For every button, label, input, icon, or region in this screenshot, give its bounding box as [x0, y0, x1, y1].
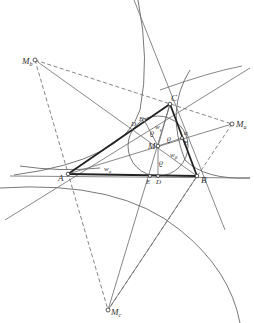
label-w-beta: wβ: [170, 151, 178, 160]
side-lines: [5, 0, 250, 230]
triangle-abc: [68, 104, 197, 176]
label-b: B: [201, 175, 207, 185]
label-w-gamma: wγ: [155, 123, 163, 132]
label-rho-1: ϱ: [150, 128, 154, 137]
label-c: C: [171, 93, 178, 103]
label-e-foot: E: [145, 178, 151, 186]
points: [33, 58, 234, 312]
label-d-top: D: [130, 120, 136, 128]
label-mc: Mc: [110, 307, 122, 318]
geometry-diagram: Mb Ma Mc A B C M F D E E D α ϱ ϱ ϱ wγ wβ…: [0, 0, 254, 323]
label-m: M: [147, 141, 156, 151]
label-alpha: α: [184, 129, 188, 137]
label-ma: Ma: [235, 119, 247, 130]
label-mb: Mb: [21, 56, 33, 67]
label-d: D: [155, 178, 161, 186]
label-e: E: [183, 139, 189, 147]
labels: Mb Ma Mc A B C M F D E E D α ϱ ϱ ϱ wγ wβ…: [21, 56, 247, 318]
label-rho-3: ϱ: [159, 158, 163, 167]
label-f: F: [138, 115, 144, 123]
label-w-alpha: wa: [104, 165, 112, 174]
label-rho-2: ϱ: [167, 134, 171, 143]
excircle-arcs: [0, 0, 250, 323]
label-a: A: [57, 173, 64, 183]
